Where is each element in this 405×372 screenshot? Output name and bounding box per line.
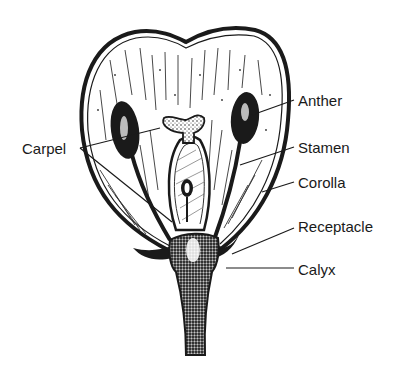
label-anther: Anther <box>298 93 342 108</box>
label-stamen: Stamen <box>298 140 350 155</box>
label-calyx: Calyx <box>298 262 336 277</box>
label-receptacle: Receptacle <box>298 219 373 234</box>
receptacle <box>169 234 219 355</box>
label-corolla: Corolla <box>298 175 346 190</box>
label-carpel: Carpel <box>22 141 66 156</box>
flower-diagram: Anther Stamen Corolla Receptacle Calyx C… <box>0 0 405 372</box>
